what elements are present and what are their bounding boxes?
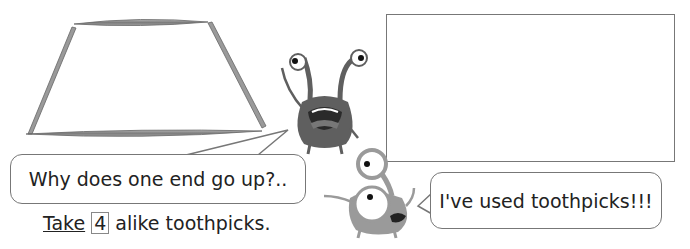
bubble-left-text: Why does one end go up?.. bbox=[29, 168, 288, 190]
caption-rest: alike toothpicks. bbox=[115, 212, 270, 234]
speech-bubble-left: Why does one end go up?.. bbox=[10, 154, 306, 204]
bubble-right-text: I've used toothpicks!!! bbox=[439, 190, 652, 212]
speech-bubble-right: I've used toothpicks!!! bbox=[430, 172, 662, 229]
caption-number-box: 4 bbox=[91, 212, 109, 234]
caption-verb: Take bbox=[43, 212, 85, 234]
instruction-caption: Take 4 alike toothpicks. bbox=[43, 212, 271, 234]
